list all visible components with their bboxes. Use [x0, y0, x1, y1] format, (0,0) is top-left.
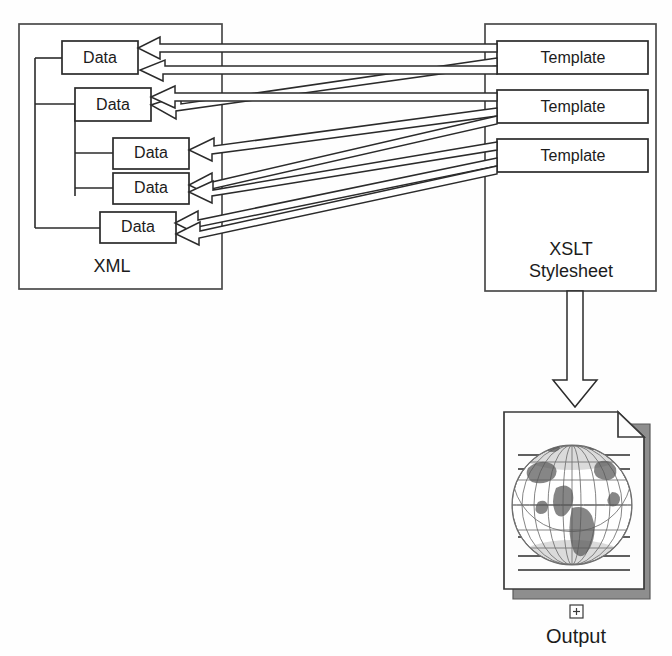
xml-data-node-3-label: Data [134, 144, 168, 161]
xslt-template-node-2-label: Template [541, 98, 606, 115]
output-label: Output [546, 625, 606, 647]
xml-data-node-2[interactable]: Data [75, 88, 151, 121]
xml-container-label: XML [93, 256, 130, 276]
xml-data-node-2-label: Data [96, 96, 130, 113]
xslt-container-label-line2: Stylesheet [529, 261, 613, 281]
xslt-container-label-line1: XSLT [549, 239, 593, 259]
arrow-template3-to-data5-b [176, 166, 497, 245]
xslt-template-node-3[interactable]: Template [497, 139, 648, 172]
diagram-canvas: Data Data Data Data Data XML [0, 0, 672, 656]
output-down-arrow [553, 291, 597, 407]
xslt-template-node-3-label: Template [541, 147, 606, 164]
xml-data-node-5-label: Data [121, 218, 155, 235]
xslt-template-node-2[interactable]: Template [497, 90, 648, 123]
output-document-icon[interactable]: Output [504, 412, 650, 647]
expand-plus-icon[interactable] [570, 605, 583, 618]
xml-data-node-1-label: Data [83, 49, 117, 66]
xslt-transformation-diagram: Data Data Data Data Data XML [0, 0, 672, 656]
xml-data-node-4[interactable]: Data [113, 173, 189, 204]
xml-data-node-5[interactable]: Data [100, 212, 176, 243]
xml-data-node-4-label: Data [134, 179, 168, 196]
xslt-template-node-1[interactable]: Template [497, 41, 648, 74]
xml-data-node-1[interactable]: Data [62, 41, 138, 74]
xml-container: Data Data Data Data Data XML [19, 24, 222, 289]
xslt-template-node-1-label: Template [541, 49, 606, 66]
xslt-stylesheet-container: Template Template Template XSLT Styleshe… [485, 24, 656, 291]
xml-data-node-3[interactable]: Data [113, 138, 189, 169]
xslt-to-output-arrow [553, 291, 597, 407]
